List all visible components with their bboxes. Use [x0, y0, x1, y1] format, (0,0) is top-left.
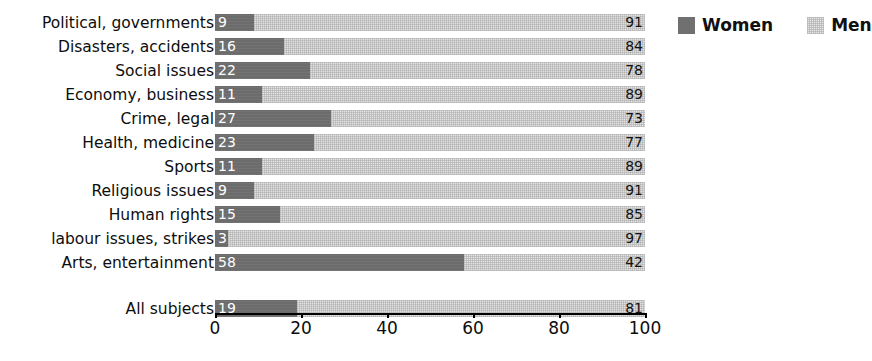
value-label-men: 73: [625, 110, 643, 127]
bar-segment-men: 91: [254, 14, 645, 31]
bar-segment-men: 73: [331, 110, 645, 127]
bar-track: 991: [215, 182, 645, 199]
category-label: Human rights: [0, 205, 214, 225]
value-label-women: 11: [218, 86, 236, 103]
category-label: Arts, entertainment: [0, 253, 214, 273]
bar-segment-men: 89: [262, 158, 645, 175]
row-spacer: [0, 276, 862, 298]
bar-track: 5842: [215, 254, 645, 271]
category-label: Sports: [0, 157, 214, 177]
value-label-men: 91: [625, 14, 643, 31]
chart-row-2: Social issues2278: [0, 60, 862, 84]
bar-track: 1189: [215, 86, 645, 103]
value-label-men: 89: [625, 86, 643, 103]
bar-segment-women: 58: [215, 254, 464, 271]
x-axis-tick-label: 40: [376, 320, 398, 337]
value-label-women: 9: [218, 182, 227, 199]
bar-segment-women: 3: [215, 230, 228, 247]
bar-track: 2278: [215, 62, 645, 79]
value-label-women: 27: [218, 110, 236, 127]
value-label-women: 9: [218, 14, 227, 31]
category-label: Social issues: [0, 61, 214, 81]
bar-track: 397: [215, 230, 645, 247]
chart-row-7: Religious issues991: [0, 180, 862, 204]
bar-track: 1189: [215, 158, 645, 175]
chart-row-1: Disasters, accidents1684: [0, 36, 862, 60]
bar-segment-women: 16: [215, 38, 284, 55]
chart-row-0: Political, governments991: [0, 12, 862, 36]
bar-track: 2773: [215, 110, 645, 127]
bar-segment-women: 27: [215, 110, 331, 127]
bar-segment-women: 11: [215, 158, 262, 175]
bar-segment-women: 9: [215, 14, 254, 31]
bar-segment-men: 89: [262, 86, 645, 103]
category-label: Health, medicine: [0, 133, 214, 153]
bar-segment-men: 78: [310, 62, 645, 79]
chart-row-6: Sports1189: [0, 156, 862, 180]
value-label-men: 42: [625, 254, 643, 271]
x-axis-tick-label: 0: [210, 320, 221, 337]
category-label: Religious issues: [0, 181, 214, 201]
value-label-women: 22: [218, 62, 236, 79]
value-label-men: 77: [625, 134, 643, 151]
bar-segment-women: 23: [215, 134, 314, 151]
category-label: All subjects: [0, 299, 214, 319]
bar-segment-men: 91: [254, 182, 645, 199]
chart-row-9: labour issues, strikes397: [0, 228, 862, 252]
category-label: Disasters, accidents: [0, 37, 214, 57]
chart-row-8: Human rights1585: [0, 204, 862, 228]
x-axis: 020406080100: [215, 313, 645, 353]
category-label: Political, governments: [0, 13, 214, 33]
x-axis-tick-label: 100: [629, 320, 661, 337]
bar-segment-men: 42: [464, 254, 645, 271]
bar-track: 1684: [215, 38, 645, 55]
bar-track: 1585: [215, 206, 645, 223]
bar-segment-women: 22: [215, 62, 310, 79]
bar-segment-men: 84: [284, 38, 645, 55]
bar-track: 2377: [215, 134, 645, 151]
bar-segment-men: 77: [314, 134, 645, 151]
bar-segment-women: 15: [215, 206, 280, 223]
x-axis-tick-label: 60: [462, 320, 484, 337]
x-axis-tick-label: 20: [290, 320, 312, 337]
value-label-women: 16: [218, 38, 236, 55]
chart-rows: Political, governments991Disasters, acci…: [0, 12, 862, 322]
x-axis-line: [215, 313, 645, 315]
value-label-women: 58: [218, 254, 236, 271]
value-label-women: 23: [218, 134, 236, 151]
value-label-women: 15: [218, 206, 236, 223]
value-label-men: 91: [625, 182, 643, 199]
value-label-men: 84: [625, 38, 643, 55]
value-label-men: 89: [625, 158, 643, 175]
bar-segment-women: 11: [215, 86, 262, 103]
chart-row-10: Arts, entertainment5842: [0, 252, 862, 276]
bar-segment-men: 85: [280, 206, 646, 223]
chart-row-3: Economy, business1189: [0, 84, 862, 108]
value-label-men: 78: [625, 62, 643, 79]
bar-segment-women: 9: [215, 182, 254, 199]
value-label-men: 97: [625, 230, 643, 247]
category-label: Economy, business: [0, 85, 214, 105]
chart-row-5: Health, medicine2377: [0, 132, 862, 156]
chart-row-4: Crime, legal2773: [0, 108, 862, 132]
category-label: labour issues, strikes: [0, 229, 214, 249]
value-label-men: 85: [625, 206, 643, 223]
bar-segment-men: 97: [228, 230, 645, 247]
value-label-women: 3: [218, 230, 227, 247]
x-axis-tick-label: 80: [548, 320, 570, 337]
value-label-women: 11: [218, 158, 236, 175]
bar-track: 991: [215, 14, 645, 31]
category-label: Crime, legal: [0, 109, 214, 129]
